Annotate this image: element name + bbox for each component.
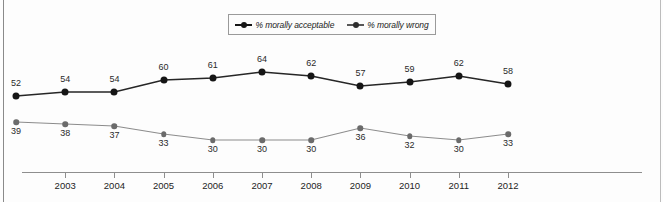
line-chart: % morally acceptable % morally wrong 525… [0, 0, 663, 202]
x-axis-label: 2008 [301, 180, 322, 191]
x-axis-label: 2003 [55, 180, 76, 191]
data-point-label: 57 [355, 68, 365, 78]
data-point [209, 75, 216, 82]
x-axis-tick [164, 173, 165, 178]
x-axis-tick [459, 173, 460, 178]
data-point-label: 61 [208, 60, 218, 70]
data-point-label: 39 [11, 126, 21, 136]
x-axis-label: 2012 [497, 180, 518, 191]
data-point-label: 33 [159, 138, 169, 148]
data-point [210, 137, 216, 143]
x-axis-tick [311, 173, 312, 178]
x-axis-label: 2004 [104, 180, 125, 191]
data-point-label: 30 [454, 144, 464, 154]
data-point [62, 89, 69, 96]
data-point-label: 62 [306, 58, 316, 68]
data-point-label: 38 [60, 128, 70, 138]
x-axis-tick [262, 173, 263, 178]
data-point-label: 54 [109, 74, 119, 84]
data-point-label: 59 [405, 64, 415, 74]
data-point-label: 36 [355, 132, 365, 142]
data-point-label: 54 [60, 74, 70, 84]
x-axis-tick [360, 173, 361, 178]
data-point [456, 137, 462, 143]
x-axis-tick [410, 173, 411, 178]
data-point [13, 119, 19, 125]
x-axis-tick [508, 173, 509, 178]
data-point [308, 73, 315, 80]
data-point-label: 62 [454, 58, 464, 68]
x-axis-label: 2009 [350, 180, 371, 191]
data-point [13, 93, 20, 100]
data-point-label: 64 [257, 54, 267, 64]
data-point [161, 131, 167, 137]
x-axis-label: 2011 [449, 180, 469, 191]
data-point [455, 73, 462, 80]
data-point-label: 60 [159, 62, 169, 72]
data-point-label: 37 [109, 130, 119, 140]
data-point [357, 83, 364, 90]
data-point-label: 52 [11, 78, 21, 88]
data-point-label: 30 [306, 144, 316, 154]
data-point [112, 123, 118, 129]
data-point [505, 131, 511, 137]
data-point [406, 79, 413, 86]
data-point-label: 33 [503, 138, 513, 148]
x-axis-label: 2007 [251, 180, 272, 191]
data-point [259, 137, 265, 143]
x-axis-label: 2010 [399, 180, 420, 191]
data-point [358, 125, 364, 131]
data-point-label: 58 [503, 66, 513, 76]
data-point [62, 121, 68, 127]
data-point [407, 133, 413, 139]
x-axis-label: 2006 [202, 180, 223, 191]
data-point [160, 77, 167, 84]
data-point-label: 30 [257, 144, 267, 154]
x-axis-tick [114, 173, 115, 178]
data-point-label: 30 [208, 144, 218, 154]
data-point [308, 137, 314, 143]
data-point-label: 32 [405, 140, 415, 150]
data-point [259, 69, 266, 76]
x-axis-tick [65, 173, 66, 178]
x-axis-tick [213, 173, 214, 178]
x-axis-label: 2005 [153, 180, 174, 191]
data-point [111, 89, 118, 96]
data-point [505, 81, 512, 88]
